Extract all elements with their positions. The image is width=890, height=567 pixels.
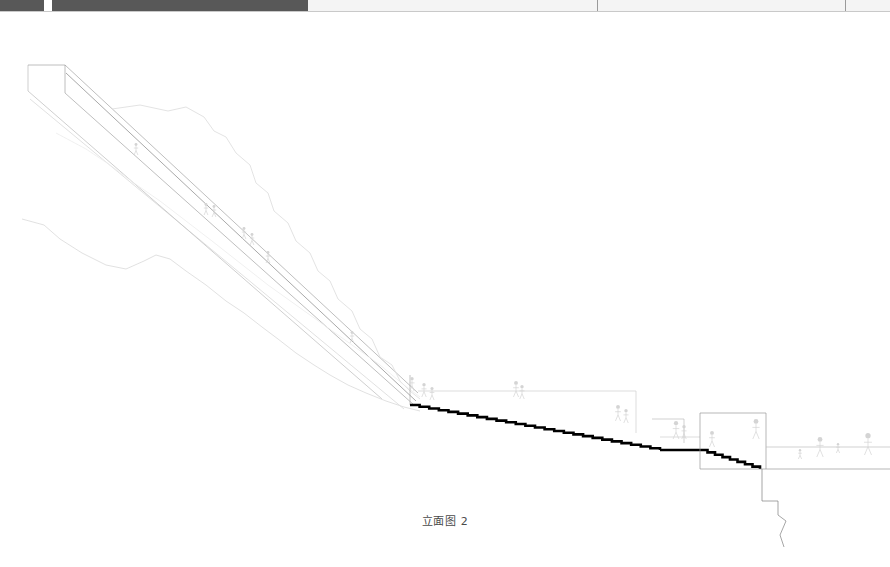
- figure-stair-1: [513, 381, 519, 397]
- drawing-page: 立面图 2: [0, 0, 890, 567]
- figure-stair-3: [615, 405, 621, 421]
- header-dark-segment-left: [0, 0, 44, 11]
- elevation-drawing-canvas[interactable]: [0, 13, 890, 567]
- lower-left-wall: [652, 419, 684, 443]
- figure-ramp-5: [250, 233, 254, 245]
- figure-ramp-3: [212, 205, 216, 217]
- figure-ramp-10: [430, 387, 435, 400]
- figure-terrace-5: [798, 449, 802, 459]
- figure-terrace-3: [709, 431, 715, 447]
- upper-ramp-band-inner: [28, 65, 382, 399]
- figure-ramp-6: [266, 251, 270, 263]
- elevation-svg: [0, 13, 890, 567]
- viewer-header-band: [0, 0, 890, 13]
- stair-run-lower: [700, 450, 760, 469]
- header-dark-segment-main: [52, 0, 308, 11]
- drawing-caption: 立面图 2: [0, 512, 890, 528]
- figure-terrace-4: [752, 419, 759, 439]
- retaining-wall-descent: [762, 469, 786, 547]
- ramp-deck-line: [66, 73, 416, 401]
- ramp-soffit-line: [30, 99, 404, 409]
- header-rule: [0, 11, 890, 12]
- figure-terrace-7: [836, 443, 840, 453]
- upper-ramp-band: [28, 65, 418, 393]
- figure-stair-4: [623, 409, 628, 423]
- figure-ramp-1: [134, 143, 138, 155]
- drawing-elements-group: [22, 65, 890, 547]
- header-tick-2: [845, 0, 846, 11]
- figure-stair-2: [519, 385, 524, 399]
- figure-ramp-9: [421, 383, 426, 397]
- figure-terrace-8: [864, 433, 872, 455]
- header-light-segment: [308, 0, 890, 11]
- terrain-mid-contour: [56, 133, 420, 397]
- header-tick-1: [597, 0, 598, 11]
- scale-figures-group: [134, 143, 872, 459]
- lower-ramp-band: [65, 65, 414, 405]
- figure-terrace-1: [673, 421, 679, 439]
- figure-ramp-2: [204, 203, 208, 215]
- stair-run-upper: [410, 405, 660, 450]
